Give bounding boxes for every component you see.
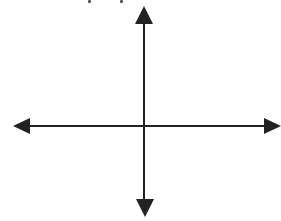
- left-arrow-icon: [13, 118, 30, 134]
- coordinate-axes-diagram: [0, 0, 281, 221]
- up-arrow-icon: [135, 6, 153, 24]
- vertical-axis: [135, 6, 154, 217]
- right-arrow-icon: [264, 118, 281, 134]
- down-arrow-icon: [136, 199, 154, 217]
- horizontal-axis: [13, 118, 281, 134]
